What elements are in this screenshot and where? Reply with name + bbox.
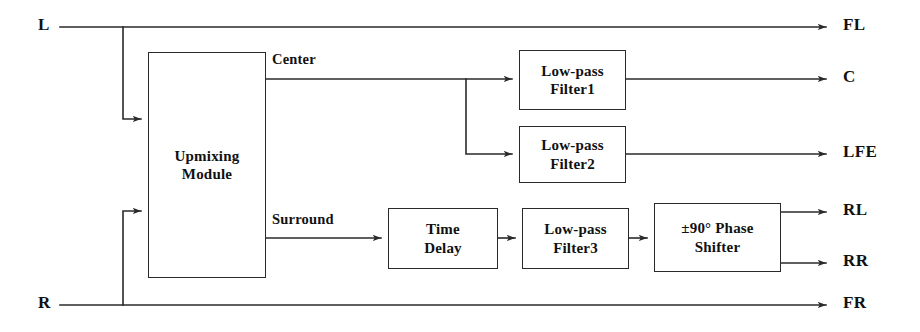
signal-label-center: Center (270, 51, 318, 68)
block-upmixing-module-line-2: Module (182, 165, 232, 183)
block-upmixing-module-line-1: Upmixing (175, 147, 240, 165)
diagram-wires (0, 0, 920, 332)
block-low-pass-filter-2: Low-pass Filter2 (519, 126, 626, 183)
block-low-pass-filter-1: Low-pass Filter1 (519, 50, 626, 110)
signal-label-surround: Surround (270, 211, 336, 228)
output-label-lfe: LFE (843, 142, 877, 162)
block-low-pass-filter-1-line-2: Filter1 (550, 80, 595, 98)
output-label-c: C (843, 67, 856, 87)
output-label-fr: FR (843, 293, 866, 313)
block-time-delay: Time Delay (388, 208, 498, 269)
block-phase-shifter-line-2: Shifter (695, 238, 741, 256)
output-label-rr: RR (843, 251, 868, 271)
block-phase-shifter: ±90° Phase Shifter (654, 203, 781, 272)
wire-center-to-filter2 (466, 79, 512, 154)
wire-r-to-upmixer (123, 211, 141, 305)
block-low-pass-filter-3: Low-pass Filter3 (522, 208, 629, 269)
block-low-pass-filter-3-line-2: Filter3 (553, 239, 598, 257)
block-low-pass-filter-2-line-1: Low-pass (541, 136, 603, 154)
block-time-delay-line-1: Time (426, 220, 460, 238)
input-label-r: R (38, 293, 51, 313)
block-low-pass-filter-1-line-1: Low-pass (541, 62, 603, 80)
wire-l-to-upmixer (123, 27, 141, 119)
input-label-l: L (38, 15, 50, 35)
block-upmixing-module: Upmixing Module (148, 52, 266, 278)
output-label-rl: RL (843, 200, 867, 220)
block-time-delay-line-2: Delay (424, 239, 462, 257)
block-phase-shifter-line-1: ±90° Phase (681, 219, 753, 237)
output-label-fl: FL (843, 15, 866, 35)
block-low-pass-filter-2-line-2: Filter2 (550, 155, 595, 173)
block-low-pass-filter-3-line-1: Low-pass (544, 220, 606, 238)
block-diagram-canvas: Upmixing Module Low-pass Filter1 Low-pas… (0, 0, 920, 332)
